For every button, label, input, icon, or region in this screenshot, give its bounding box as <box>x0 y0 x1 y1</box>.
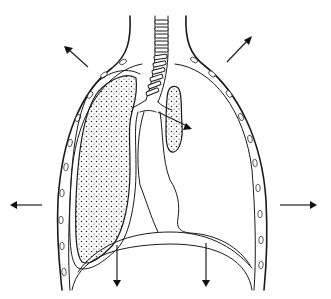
right-lung <box>70 70 140 268</box>
mediastinum <box>138 112 250 265</box>
thorax-diagram <box>0 0 331 299</box>
arrow-upper-left <box>64 46 88 67</box>
arrow-down-right <box>202 243 210 287</box>
arrow-upper-right <box>227 36 252 62</box>
arrow-left <box>10 201 42 209</box>
arrow-right <box>280 201 317 209</box>
trachea <box>132 16 172 112</box>
